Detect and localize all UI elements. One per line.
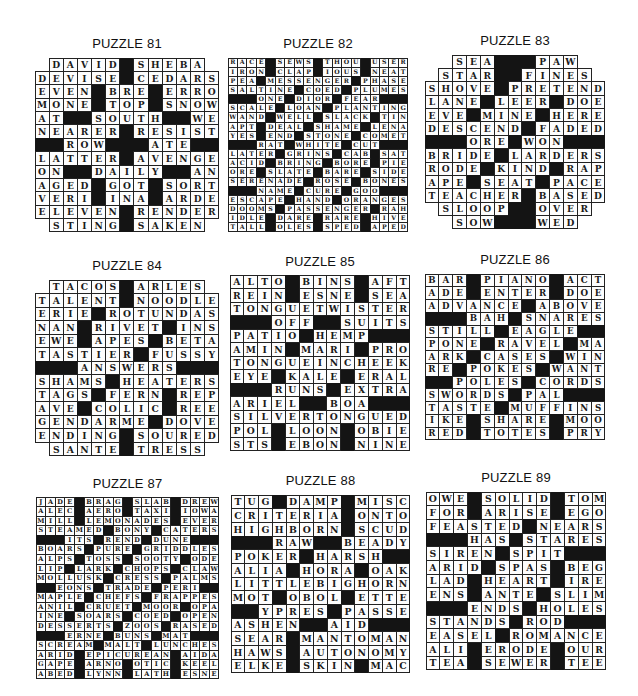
letter-cell: A bbox=[494, 350, 509, 364]
black-square bbox=[245, 536, 259, 550]
letter-cell: E bbox=[466, 95, 481, 109]
letter-cell: E bbox=[148, 205, 163, 219]
letter-cell: P bbox=[425, 337, 440, 351]
letter-cell: E bbox=[592, 628, 607, 643]
letter-cell: N bbox=[521, 274, 536, 288]
letter-cell: S bbox=[452, 215, 467, 229]
letter-cell: E bbox=[77, 98, 92, 112]
letter-cell: F bbox=[148, 347, 163, 362]
letter-cell: E bbox=[480, 286, 495, 300]
letter-cell: A bbox=[49, 320, 64, 335]
letter-cell: S bbox=[592, 533, 607, 548]
puzzle-82: PUZZLE 82 RACESEWSTHOUUSERIRONCLAPIOUSNE… bbox=[228, 0, 408, 236]
letter-cell: R bbox=[563, 162, 578, 176]
letter-cell: O bbox=[577, 414, 592, 428]
letter-cell: T bbox=[257, 275, 272, 290]
letter-cell: I bbox=[313, 275, 328, 290]
black-square bbox=[494, 216, 508, 229]
black-square bbox=[578, 547, 592, 561]
letter-cell: S bbox=[176, 442, 191, 457]
black-square bbox=[508, 135, 522, 148]
letter-cell: N bbox=[481, 546, 496, 561]
letter-cell: H bbox=[368, 549, 383, 564]
letter-cell: G bbox=[258, 522, 273, 537]
letter-cell: I bbox=[452, 325, 467, 339]
letter-cell: E bbox=[494, 376, 509, 390]
letter-cell: R bbox=[452, 274, 467, 288]
empty-space bbox=[205, 280, 219, 294]
letter-cell: E bbox=[231, 659, 246, 674]
letter-cell: S bbox=[577, 68, 592, 82]
black-square bbox=[536, 363, 550, 376]
letter-cell: O bbox=[396, 342, 411, 357]
letter-cell: E bbox=[63, 84, 78, 98]
letter-cell: E bbox=[354, 536, 369, 551]
letter-cell: O bbox=[341, 645, 356, 660]
letter-cell: F bbox=[382, 275, 397, 290]
letter-cell: I bbox=[244, 577, 259, 592]
letter-cell: P bbox=[521, 388, 536, 402]
letter-cell: M bbox=[368, 631, 383, 646]
black-square bbox=[341, 437, 355, 451]
letter-cell: O bbox=[452, 388, 467, 402]
letter-cell: G bbox=[63, 388, 78, 403]
letter-cell: N bbox=[549, 135, 564, 149]
letter-cell: A bbox=[35, 111, 50, 125]
letter-cell: L bbox=[119, 401, 134, 416]
letter-cell: S bbox=[563, 188, 578, 202]
letter-cell: O bbox=[480, 363, 495, 377]
letter-cell: S bbox=[495, 533, 510, 548]
letter-cell: D bbox=[577, 376, 592, 390]
black-square bbox=[563, 135, 577, 148]
letter-cell: W bbox=[326, 302, 341, 317]
letter-cell: N bbox=[494, 121, 509, 135]
black-square bbox=[550, 414, 564, 427]
letter-cell: S bbox=[509, 546, 524, 561]
letter-cell: I bbox=[313, 508, 328, 523]
letter-cell: R bbox=[480, 135, 495, 149]
letter-cell: L bbox=[425, 95, 440, 109]
letter-cell: A bbox=[425, 299, 440, 313]
letter-cell: R bbox=[577, 148, 592, 162]
letter-cell: I bbox=[494, 108, 509, 122]
letter-cell: N bbox=[77, 442, 92, 457]
letter-cell: D bbox=[176, 205, 191, 219]
black-square bbox=[258, 316, 272, 330]
letter-cell: R bbox=[535, 148, 550, 162]
letter-cell: C bbox=[340, 356, 355, 371]
black-square bbox=[134, 348, 148, 362]
letter-cell: A bbox=[327, 508, 342, 523]
letter-cell: I bbox=[258, 508, 273, 523]
letter-cell: N bbox=[326, 275, 341, 290]
black-square bbox=[454, 533, 468, 547]
letter-cell: V bbox=[190, 415, 205, 430]
letter-cell: A bbox=[368, 536, 383, 551]
letter-cell: R bbox=[176, 428, 191, 443]
letter-cell: I bbox=[578, 587, 593, 602]
letter-cell: Y bbox=[396, 645, 411, 660]
black-square bbox=[120, 58, 134, 71]
letter-cell: N bbox=[63, 415, 78, 430]
letter-cell: S bbox=[426, 546, 441, 561]
letter-cell: B bbox=[299, 590, 314, 605]
empty-space bbox=[439, 216, 453, 229]
letter-cell: S bbox=[162, 361, 177, 376]
letter-cell: H bbox=[148, 111, 163, 125]
letter-cell: N bbox=[536, 519, 551, 534]
letter-cell: N bbox=[327, 631, 342, 646]
letter-cell: E bbox=[35, 334, 50, 349]
letter-cell: A bbox=[549, 121, 564, 135]
letter-cell: S bbox=[481, 656, 496, 671]
black-square bbox=[162, 402, 176, 416]
letter-cell: E bbox=[480, 81, 495, 95]
letter-cell: E bbox=[272, 659, 287, 674]
letter-cell: E bbox=[176, 280, 191, 295]
letter-cell: L bbox=[257, 410, 272, 425]
letter-cell: S bbox=[494, 388, 509, 402]
letter-cell: S bbox=[453, 628, 468, 643]
letter-cell: R bbox=[425, 363, 440, 377]
letter-cell: G bbox=[341, 577, 356, 592]
letter-cell: E bbox=[466, 162, 481, 176]
letter-cell: L bbox=[49, 205, 64, 219]
letter-cell: R bbox=[425, 162, 440, 176]
